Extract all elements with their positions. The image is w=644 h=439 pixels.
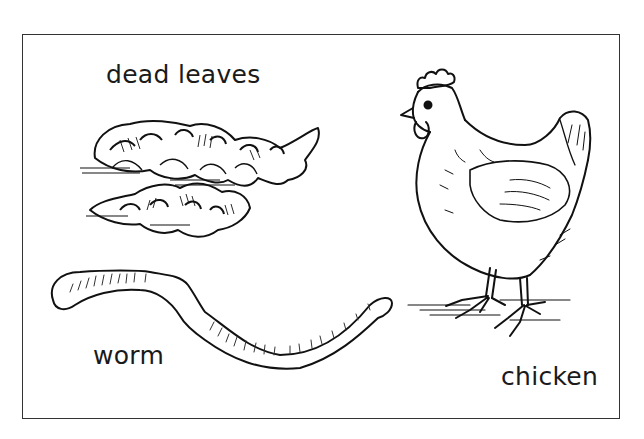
dead-leaves-illustration [80,121,319,237]
illustrations [0,0,644,439]
worm-illustration [52,271,392,369]
chicken-illustration [401,70,590,337]
